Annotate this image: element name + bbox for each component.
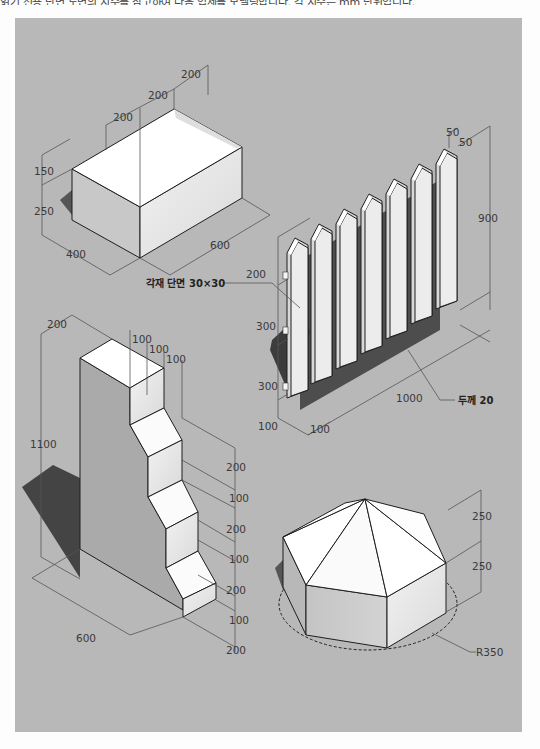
- fence-dim-rail1: 200: [246, 268, 266, 280]
- stairs-figure: 200 100 100 100 1100 200 100 200 100 200…: [22, 315, 249, 656]
- stairs-dim-s3: 100: [166, 353, 186, 365]
- stairs-dim-length: 600: [76, 632, 96, 644]
- stairs-dim-r7: 200: [226, 644, 246, 656]
- stairs-dim-r2: 100: [229, 492, 249, 504]
- fence-dim-tip-b: 50: [459, 136, 472, 148]
- fence-dim-base: 100: [258, 420, 278, 432]
- octagon-dim-roof-h: 250: [472, 510, 492, 522]
- stairs-shadow: [22, 465, 80, 578]
- fence-dim-thick-x: 100: [310, 423, 330, 435]
- fence-callout-thickness: 두께 20: [458, 394, 493, 406]
- drawing-canvas: 200 200 200 150 250 400 600: [0, 0, 540, 749]
- stairs-dim-r5: 200: [226, 584, 246, 596]
- box-dim-roof-h: 150: [34, 165, 54, 177]
- fence-dim-length: 1000: [396, 392, 423, 404]
- box-dim-top2: 200: [148, 89, 168, 101]
- box-dim-top1: 200: [113, 111, 133, 123]
- fence-dim-height: 900: [478, 212, 498, 224]
- octagon-dim-wall-h: 250: [472, 560, 492, 572]
- stairs-dim-r1: 200: [226, 461, 246, 473]
- box-figure: 200 200 200 150 250 400 600: [34, 65, 270, 275]
- octagon-figure: 250 250 R350: [275, 490, 503, 658]
- stairs-dim-top-w: 200: [47, 318, 67, 330]
- fence-dim-rail3: 300: [258, 380, 278, 392]
- box-dim-wall-h: 250: [34, 205, 54, 217]
- fence-dim-tip-a: 50: [446, 126, 459, 138]
- stairs-dim-r6: 100: [229, 614, 249, 626]
- stairs-dim-r4: 100: [229, 553, 249, 565]
- box-dim-width: 600: [210, 239, 230, 251]
- octagon-dim-radius: R350: [476, 646, 503, 658]
- fence-dim-rail2: 300: [256, 320, 276, 332]
- fence-callout-rail-section: 각재 단면 30×30: [146, 277, 225, 289]
- stairs-dim-r3: 200: [226, 523, 246, 535]
- stairs-dim-height: 1100: [30, 438, 57, 450]
- box-shadow: [60, 190, 72, 215]
- box-dim-depth: 400: [66, 248, 86, 260]
- box-dim-top3: 200: [181, 68, 201, 80]
